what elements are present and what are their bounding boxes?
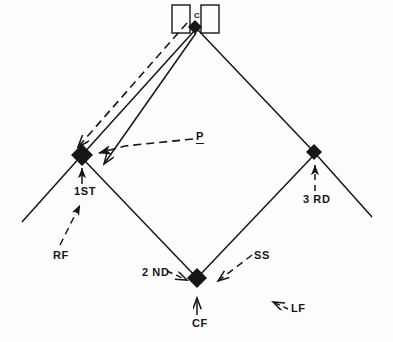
- label-center-field: CF: [192, 318, 208, 329]
- label-shortstop: SS: [254, 250, 270, 261]
- baseball-diagram-canvas: C P 1ST 3 RD 2 ND SS RF CF LF: [0, 0, 393, 342]
- bases-group: [71, 20, 322, 288]
- label-pitcher: P: [196, 131, 204, 142]
- batter-box-left: [172, 5, 190, 33]
- batter-box-right: [201, 5, 219, 33]
- label-right-field: RF: [53, 250, 69, 261]
- leader-line-left-field: [273, 302, 288, 309]
- label-third-base: 3 RD: [303, 194, 330, 205]
- field-diagram-svg: [0, 0, 393, 342]
- leader-line-second-base: [167, 271, 187, 280]
- leader-line-right-field: [60, 205, 80, 245]
- label-catcher: C: [194, 12, 200, 20]
- throw-line-home-to-cutoff: [104, 33, 196, 164]
- dashed-throw-catcher-to-first: [78, 23, 187, 147]
- foul-line-left-field: [198, 30, 372, 217]
- foul-line-right-field: [22, 30, 195, 222]
- label-left-field: LF: [291, 303, 306, 314]
- label-second-base: 2 ND: [142, 267, 169, 278]
- baseline-first-to-second: [84, 160, 197, 278]
- leader-line-shortstop: [218, 255, 252, 281]
- label-first-base: 1ST: [74, 186, 96, 197]
